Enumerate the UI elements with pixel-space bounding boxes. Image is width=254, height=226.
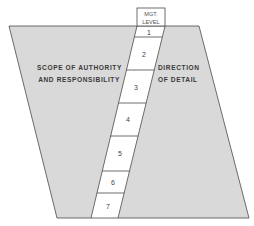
level-5-number: 5 <box>118 150 122 157</box>
level-1-number: 1 <box>147 29 151 36</box>
level-3-number: 3 <box>134 84 138 91</box>
level-7-number: 7 <box>106 203 110 210</box>
detail-label-line-1: DIRECTION <box>158 64 200 71</box>
scope-label-line-2: AND RESPONSIBILITY <box>38 76 120 83</box>
management-level-diagram: MGT. LEVEL 1 2 3 4 5 6 7 SCOPE OF AUTHOR… <box>0 0 254 226</box>
scope-label-line-1: SCOPE OF AUTHORITY <box>37 64 122 71</box>
header-line-2: LEVEL <box>142 19 159 25</box>
detail-label-line-2: OF DETAIL <box>158 76 198 83</box>
header-line-1: MGT. <box>144 11 158 17</box>
level-2-number: 2 <box>142 51 146 58</box>
direction-of-detail-area <box>118 26 249 218</box>
level-4-number: 4 <box>126 116 130 123</box>
level-6-number: 6 <box>111 179 115 186</box>
scope-of-authority-area <box>9 26 137 218</box>
